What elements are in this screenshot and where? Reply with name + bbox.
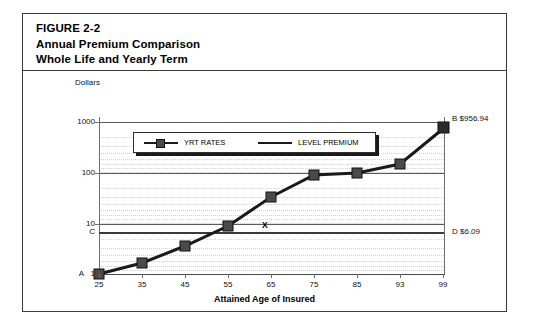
legend-entry-level-premium: LEVEL PREMIUM	[258, 133, 359, 152]
x-tick-label-99: 99	[439, 280, 448, 289]
x-tick-mark	[271, 274, 272, 278]
x-tick-mark	[443, 274, 444, 278]
data-point-marker	[180, 241, 190, 251]
data-point-marker	[352, 168, 362, 178]
x-tick-mark	[357, 274, 358, 278]
x-tick-label-85: 85	[353, 280, 362, 289]
figure-card: FIGURE 2-2 Annual Premium Comparison Who…	[22, 13, 507, 312]
x-tick-label-93: 93	[396, 280, 405, 289]
figure-number: FIGURE 2-2	[36, 21, 506, 37]
annotation-c: C	[89, 227, 95, 236]
x-tick-mark	[228, 274, 229, 278]
x-tick-label-45: 45	[181, 280, 190, 289]
annotation-d: D $6.09	[452, 227, 480, 236]
figure-title-line-1: Annual Premium Comparison	[36, 37, 506, 53]
x-tick-label-65: 65	[267, 280, 276, 289]
x-tick-mark	[185, 274, 186, 278]
x-tick-mark	[99, 274, 100, 278]
y-tick-label-100: 100	[82, 168, 95, 177]
figure-title-line-2: Whole Life and Yearly Term	[36, 52, 506, 68]
x-tick-label-55: 55	[224, 280, 233, 289]
annotation-b: B $956.94	[452, 114, 488, 123]
x-tick-label-25: 25	[95, 280, 104, 289]
data-point-marker	[266, 192, 276, 202]
y-axis-title: Dollars	[75, 78, 100, 87]
data-point-marker	[309, 170, 319, 180]
x-tick-label-35: 35	[138, 280, 147, 289]
data-point-marker	[223, 221, 233, 231]
legend-label-level-premium: LEVEL PREMIUM	[298, 138, 359, 147]
x-tick-mark	[142, 274, 143, 278]
x-tick-label-75: 75	[310, 280, 319, 289]
data-point-marker	[137, 258, 147, 268]
chart-legend: YRT RATES LEVEL PREMIUM	[133, 132, 376, 153]
chart-area: Dollars	[23, 71, 506, 311]
x-tick-mark	[400, 274, 401, 278]
plot-area: 1000 100 10 1 C D $6.09 A B $956.94 X	[99, 122, 444, 274]
legend-line-icon	[258, 138, 292, 148]
annotation-a: A	[79, 269, 84, 278]
y-tick-label-1000: 1000	[77, 117, 95, 126]
x-axis-title: Attained Age of Insured	[23, 294, 506, 304]
legend-label-yrt-rates: YRT RATES	[184, 138, 225, 147]
x-tick-mark	[314, 274, 315, 278]
data-point-marker	[438, 122, 449, 133]
legend-marker-line-icon	[144, 138, 178, 148]
legend-entry-yrt-rates: YRT RATES	[144, 133, 225, 152]
title-block: FIGURE 2-2 Annual Premium Comparison Who…	[23, 14, 506, 71]
data-point-marker	[395, 159, 405, 169]
